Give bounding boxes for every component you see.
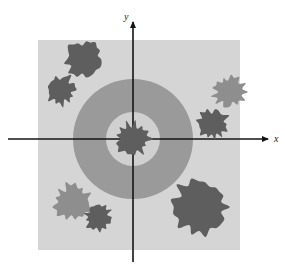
y-axis-label: y xyxy=(123,11,129,22)
x-axis-label: x xyxy=(273,133,279,144)
figure-canvas: x y xyxy=(0,0,285,274)
probability-target-diagram: x y xyxy=(0,0,285,274)
